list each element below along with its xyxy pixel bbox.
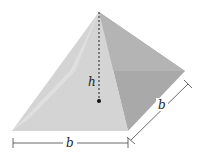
height-label: h xyxy=(88,75,96,89)
base-side-label: b xyxy=(158,98,166,112)
base-center-dot xyxy=(97,99,101,103)
pyramid-diagram: h b b xyxy=(0,0,197,155)
base-front-label: b xyxy=(66,136,74,150)
